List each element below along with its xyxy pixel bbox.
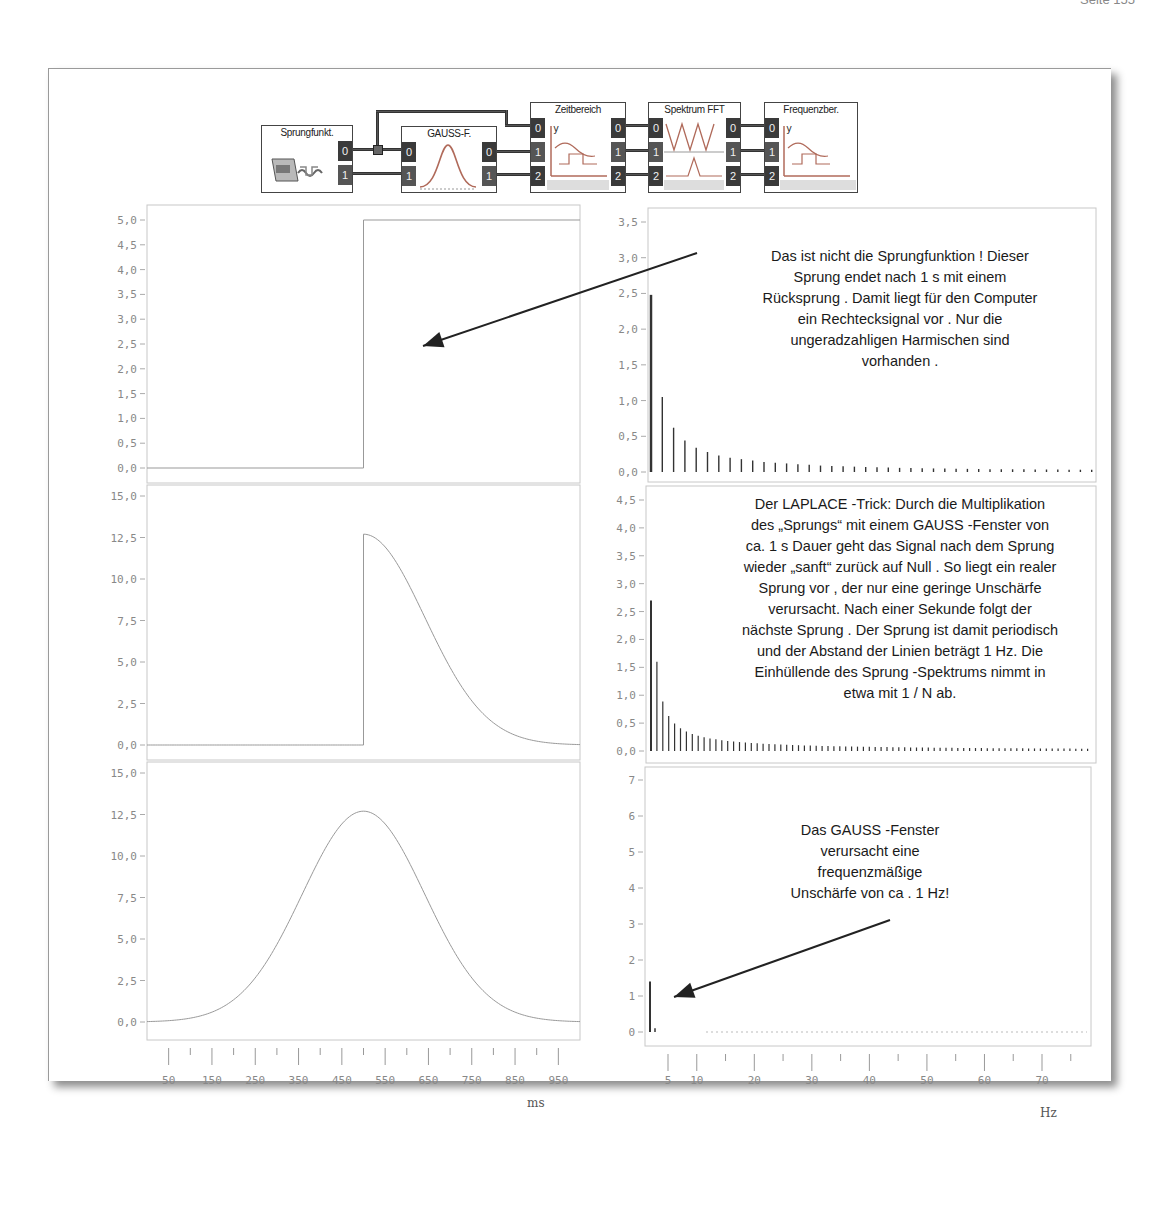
y-tick-label: 5,0 (117, 933, 137, 946)
y-tick-label: 3,0 (616, 578, 636, 591)
y-tick-label: 1,0 (618, 395, 638, 408)
y-tick-label: 0,5 (616, 717, 636, 730)
y-tick-label: 2,0 (618, 323, 638, 336)
x-tick-label: 5 (665, 1074, 672, 1087)
x-tick-label: 50 (162, 1074, 175, 1087)
y-tick-label: 3 (628, 918, 635, 931)
x-tick-label: 150 (202, 1074, 222, 1087)
annotation-line: Sprung vor , der nur eine geringe Unschä… (690, 578, 1110, 599)
y-tick-label: 7,5 (117, 615, 137, 628)
y-tick-label: 1,5 (616, 661, 636, 674)
x-tick-label: 250 (245, 1074, 265, 1087)
chart-time-gauss: 0,02,55,07,510,012,515,05015025035045055… (111, 762, 581, 1087)
x-axis-unit-time: ms (527, 1096, 545, 1110)
y-tick-label: 0 (628, 1026, 635, 1039)
y-tick-label: 10,0 (111, 850, 138, 863)
annotation-line: des „Sprungs“ mit einem GAUSS -Fenster v… (690, 515, 1110, 536)
annotation-line: Einhüllende des Sprung -Spektrums nimmt … (690, 662, 1110, 683)
annotation-line: Das ist nicht die Sprungfunktion ! Diese… (700, 246, 1100, 267)
y-tick-label: 2,5 (117, 698, 137, 711)
chart-time-step-gauss: 0,02,55,07,510,012,515,0 (111, 485, 581, 760)
y-tick-label: 1 (628, 990, 635, 1003)
annotation-line: etwa mit 1 / N ab. (690, 683, 1110, 704)
y-tick-label: 4,0 (616, 522, 636, 535)
chart-spectrum-gauss: 01234567510203040506070 (628, 767, 1091, 1087)
y-tick-label: 1,0 (616, 689, 636, 702)
y-tick-label: 4 (628, 882, 635, 895)
y-tick-label: 5,0 (117, 214, 137, 227)
y-tick-label: 10,0 (111, 573, 138, 586)
y-tick-label: 1,5 (618, 359, 638, 372)
x-tick-label: 350 (289, 1074, 309, 1087)
annotation-line: und der Abstand der Linien beträgt 1 Hz.… (690, 641, 1110, 662)
plot-area (645, 767, 1091, 1046)
annotation-top: Das ist nicht die Sprungfunktion ! Diese… (700, 246, 1100, 372)
y-tick-label: 4,5 (117, 239, 137, 252)
y-tick-label: 12,5 (111, 809, 138, 822)
x-tick-label: 650 (419, 1074, 439, 1087)
annotation-line: wieder „sanft“ zurück auf Null . So lieg… (690, 557, 1110, 578)
x-tick-label: 750 (462, 1074, 482, 1087)
y-tick-label: 4,5 (616, 494, 636, 507)
annotation-line: ca. 1 s Dauer geht das Signal nach dem S… (690, 536, 1110, 557)
annotation-bottom: Das GAUSS -Fensterverursacht einefrequen… (760, 820, 980, 904)
y-tick-label: 3,5 (618, 216, 638, 229)
y-tick-label: 4,0 (117, 264, 137, 277)
annotation-line: nächste Sprung . Der Sprung ist damit pe… (690, 620, 1110, 641)
x-tick-label: 450 (332, 1074, 352, 1087)
x-axis-unit-frequency: Hz (1040, 1106, 1057, 1120)
y-tick-label: 3,5 (616, 550, 636, 563)
chart-time-step: 0,00,51,01,52,02,53,03,54,04,55,0 (117, 205, 580, 483)
y-tick-label: 6 (628, 810, 635, 823)
annotation-line: ein Rechtecksignal vor . Nur die (700, 309, 1100, 330)
annotation-line: vorhanden . (700, 351, 1100, 372)
x-tick-label: 550 (375, 1074, 395, 1087)
x-tick-label: 50 (920, 1074, 933, 1087)
y-tick-label: 2,5 (616, 606, 636, 619)
y-tick-label: 5 (628, 846, 635, 859)
annotation-line: Unschärfe von ca . 1 Hz! (760, 883, 980, 904)
y-tick-label: 0,0 (616, 745, 636, 758)
annotation-middle: Der LAPLACE -Trick: Durch die Multiplika… (690, 494, 1110, 704)
x-tick-label: 40 (863, 1074, 876, 1087)
annotation-line: verursacht. Nach einer Sekunde folgt der (690, 599, 1110, 620)
y-tick-label: 0,5 (618, 430, 638, 443)
y-tick-label: 15,0 (111, 490, 138, 503)
annotation-line: frequenzmäßige (760, 862, 980, 883)
y-tick-label: 2 (628, 954, 635, 967)
y-tick-label: 3,5 (117, 288, 137, 301)
x-tick-label: 30 (805, 1074, 818, 1087)
x-tick-label: 950 (548, 1074, 568, 1087)
y-tick-label: 5,0 (117, 656, 137, 669)
y-tick-label: 0,0 (117, 462, 137, 475)
y-tick-label: 0,0 (117, 739, 137, 752)
y-tick-label: 7,5 (117, 892, 137, 905)
y-tick-label: 0,0 (618, 466, 638, 479)
y-tick-label: 2,5 (117, 975, 137, 988)
x-tick-label: 850 (505, 1074, 525, 1087)
y-tick-label: 2,5 (117, 338, 137, 351)
y-tick-label: 0,0 (117, 1016, 137, 1029)
x-tick-label: 20 (748, 1074, 761, 1087)
y-tick-label: 3,0 (117, 313, 137, 326)
y-tick-label: 3,0 (618, 252, 638, 265)
x-tick-label: 70 (1035, 1074, 1048, 1087)
y-tick-label: 2,5 (618, 287, 638, 300)
annotation-line: ungeradzahligen Harmischen sind (700, 330, 1100, 351)
y-tick-label: 1,0 (117, 412, 137, 425)
y-tick-label: 2,0 (616, 633, 636, 646)
y-tick-label: 1,5 (117, 388, 137, 401)
annotation-line: Der LAPLACE -Trick: Durch die Multiplika… (690, 494, 1110, 515)
annotation-line: verursacht eine (760, 841, 980, 862)
annotation-line: Das GAUSS -Fenster (760, 820, 980, 841)
y-tick-label: 2,0 (117, 363, 137, 376)
x-tick-label: 10 (690, 1074, 703, 1087)
y-tick-label: 7 (628, 774, 635, 787)
annotation-line: Sprung endet nach 1 s mit einem (700, 267, 1100, 288)
y-tick-label: 0,5 (117, 437, 137, 450)
x-tick-label: 60 (978, 1074, 991, 1087)
annotation-line: Rücksprung . Damit liegt für den Compute… (700, 288, 1100, 309)
y-tick-label: 15,0 (111, 767, 138, 780)
plot-area (147, 762, 580, 1040)
y-tick-label: 12,5 (111, 532, 138, 545)
